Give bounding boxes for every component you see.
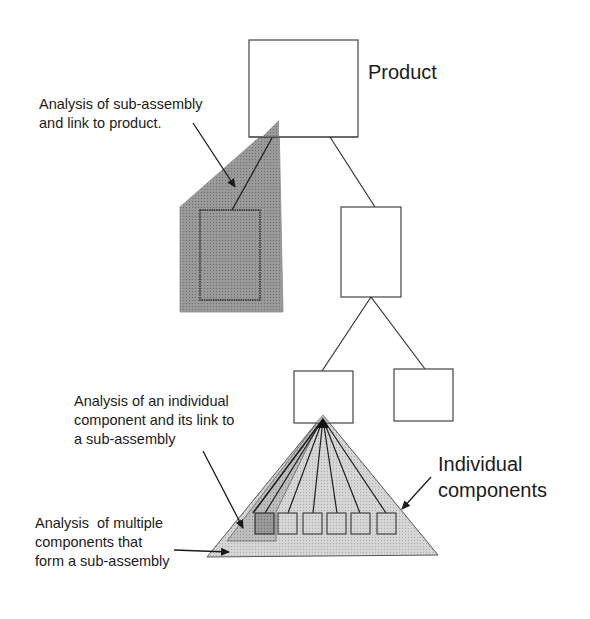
product-label: Product: [368, 60, 437, 85]
sub-assembly-inner-box: [200, 210, 260, 300]
individual-components-label: Individual components: [438, 451, 547, 503]
sub-assembly-box: [341, 207, 401, 297]
component-4: [327, 513, 346, 534]
sub-assembly-analysis-region: [180, 120, 283, 312]
sub-assembly-analysis-label: Analysis of sub-assembly and link to pro…: [39, 95, 203, 133]
sub-assembly-child-right-box: [394, 369, 453, 421]
component-2: [278, 513, 297, 534]
product-box: [249, 40, 358, 137]
component-3: [303, 513, 322, 534]
arrow-individual-component-analysis: [203, 451, 243, 528]
multiple-components-analysis-label: Analysis of multiple components that for…: [35, 514, 170, 571]
link-middle-to-left: [322, 297, 371, 371]
arrow-individual-components: [402, 477, 431, 509]
link-product-to-middle: [330, 137, 375, 207]
component-5: [351, 513, 370, 534]
component-6: [377, 513, 396, 534]
component-1: [255, 513, 274, 534]
individual-component-analysis-label: Analysis of an individual component and …: [74, 392, 234, 449]
link-middle-to-right: [371, 297, 425, 369]
